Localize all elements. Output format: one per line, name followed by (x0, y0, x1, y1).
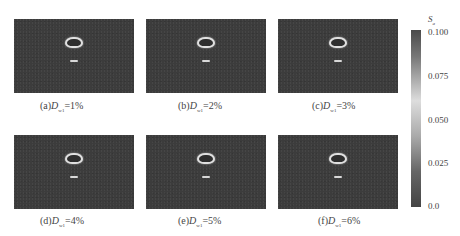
ring-feature (197, 37, 215, 48)
ring-feature (65, 37, 83, 48)
ring-feature (329, 153, 347, 164)
dash-feature (70, 60, 78, 62)
dash-feature (70, 176, 78, 178)
caption-e: (e)Dw1=5% (178, 215, 221, 228)
caption-b: (b)Dw1=2% (178, 100, 222, 113)
dash-feature (202, 60, 210, 62)
panel-a (14, 19, 134, 93)
panel-f (278, 135, 398, 209)
colorbar-tick: 0.075 (428, 71, 448, 81)
caption-f: (f)Dw1=6% (318, 215, 360, 228)
ring-feature (329, 37, 347, 48)
dash-feature (334, 176, 342, 178)
colorbar-tick: 0.050 (428, 115, 448, 125)
panel-c (278, 19, 398, 93)
panel-d (14, 135, 134, 209)
dash-feature (334, 60, 342, 62)
ring-feature (197, 153, 215, 164)
caption-d: (d)Dw1=4% (40, 215, 84, 228)
colorbar-tick: 0.025 (428, 158, 448, 168)
dash-feature (202, 176, 210, 178)
ring-feature (65, 153, 83, 164)
colorbar-title: Sa (428, 14, 435, 26)
panel-b (146, 19, 266, 93)
caption-a: (a)Dw1=1% (40, 100, 83, 113)
caption-c: (c)Dw1=3% (312, 100, 355, 113)
panel-e (146, 135, 266, 209)
colorbar-tick: 0.100 (428, 27, 448, 37)
colorbar-tick: 0.0 (428, 201, 439, 211)
colorbar (411, 30, 421, 207)
